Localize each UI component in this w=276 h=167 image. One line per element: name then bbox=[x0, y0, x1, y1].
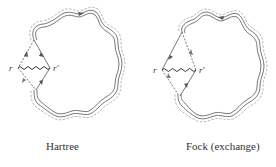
hartree-caption: Hartree bbox=[46, 140, 79, 152]
fock-caption: Fock (exchange) bbox=[186, 140, 260, 152]
hartree-interaction-line bbox=[18, 67, 50, 70]
arrow-icon bbox=[24, 51, 28, 57]
arrow-icon bbox=[167, 73, 171, 78]
vertex-label-r: r bbox=[9, 63, 13, 73]
fock-vertex-diamond bbox=[162, 32, 196, 96]
vertex-label-r-prime: r' bbox=[53, 63, 60, 73]
hartree-wavy-loop bbox=[33, 10, 122, 117]
arrow-icon bbox=[184, 83, 188, 88]
fock-dashed-loop bbox=[175, 9, 267, 122]
fock-diagram: r r' bbox=[138, 0, 276, 135]
arrow-icon bbox=[22, 78, 26, 83]
fock-interaction-line bbox=[162, 69, 196, 72]
vertex-label-r: r bbox=[153, 65, 157, 75]
hartree-diagram: r r' bbox=[0, 0, 138, 135]
vertex-label-r-prime: r' bbox=[199, 65, 206, 75]
fock-wavy-loop bbox=[178, 12, 264, 119]
hartree-vertex-diamond bbox=[18, 40, 50, 90]
arrow-icon bbox=[218, 16, 224, 20]
